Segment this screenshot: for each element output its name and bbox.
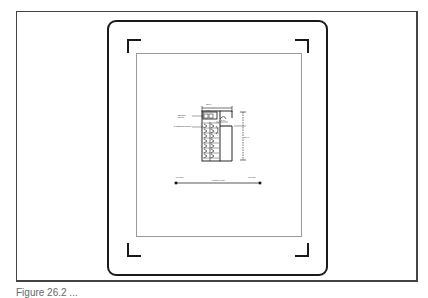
- crop-mark-top-left: [127, 39, 141, 53]
- stalls-label: 2' Stalls Required: [174, 125, 192, 127]
- figure-caption: Figure 26.2 ...: [16, 287, 78, 298]
- bottom-center-label: Property Line: [212, 179, 225, 181]
- storage-room-label: Storage Room: [178, 114, 192, 119]
- mid-dimension-label: 5'-0": [221, 119, 225, 121]
- crop-mark-bottom-left: [127, 243, 141, 257]
- bottom-left-label: Lot Line: [176, 176, 184, 178]
- crop-mark-top-right: [295, 39, 309, 53]
- top-dimension-label: 12'-0": [206, 103, 212, 105]
- bottom-right-label: Lot Line: [248, 176, 256, 178]
- sub-dimension-label: 8'-0": [206, 109, 210, 111]
- floor-plan-diagram: 12'-0" 8'-0" 5'-0" 24'-0" Storage Room 2…: [170, 100, 270, 190]
- crop-mark-bottom-right: [295, 243, 309, 257]
- right-dimension-label: 24'-0": [244, 136, 250, 138]
